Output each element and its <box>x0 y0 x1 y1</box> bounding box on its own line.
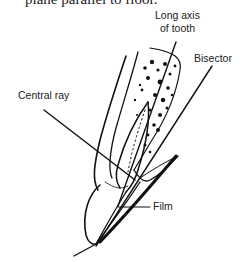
long-axis-label: Long axis of tooth <box>155 9 200 35</box>
film-label: Film <box>153 200 173 213</box>
central-ray-line <box>44 110 135 180</box>
central-ray-label: Central ray <box>18 89 69 102</box>
inner-contour <box>110 52 138 178</box>
long-axis-label-line2: of tooth <box>155 22 200 35</box>
bisector-label: Bisector <box>194 52 232 65</box>
dental-diagram <box>0 0 250 262</box>
apex-line <box>74 244 96 256</box>
crown-outline <box>85 185 100 244</box>
long-axis-label-line1: Long axis <box>155 9 200 22</box>
